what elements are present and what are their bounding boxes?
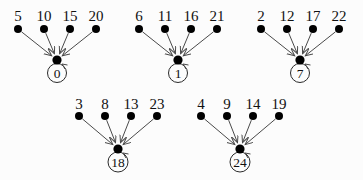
leaf-node-label: 20 (89, 8, 104, 24)
mapping-group: 21217227 (257, 8, 347, 83)
leaf-node-dot (213, 25, 221, 33)
leaf-node-dot (197, 112, 205, 120)
leaf-node-dot (92, 25, 100, 33)
leaf-node-label: 14 (246, 96, 262, 112)
edge-arrow (123, 119, 153, 145)
leaf-node-dot (187, 25, 195, 33)
hub-node-label: 7 (297, 66, 304, 81)
edge-arrow (303, 33, 312, 54)
edge-arrow (82, 119, 112, 145)
leaf-node-dot (127, 112, 135, 120)
diagram-canvas: 5101520061116211212172273813231849141924 (0, 0, 363, 180)
hub-node-dot (235, 144, 244, 153)
leaf-node-label: 23 (150, 96, 165, 112)
leaf-node-label: 13 (124, 96, 139, 112)
leaf-node-label: 6 (135, 8, 143, 24)
leaf-node-label: 3 (75, 96, 83, 112)
leaf-node-dot (14, 25, 22, 33)
edge-arrow (229, 120, 238, 142)
mapping-group: 51015200 (14, 8, 104, 83)
mapping-group: 49141924 (197, 96, 287, 172)
leaf-node-dot (75, 112, 83, 120)
leaf-node-label: 16 (184, 8, 200, 24)
leaf-node-dot (335, 25, 343, 33)
leaf-node-dot (66, 25, 74, 33)
edge-arrow (60, 33, 69, 54)
leaf-node-label: 12 (280, 8, 295, 24)
leaf-node-dot (161, 25, 169, 33)
edge-arrow (204, 119, 234, 145)
leaf-node-label: 11 (158, 8, 172, 24)
leaf-node-label: 4 (197, 96, 205, 112)
leaf-node-dot (153, 112, 161, 120)
edge-arrow (181, 33, 190, 54)
leaf-node-dot (257, 25, 265, 33)
edge-arrow (245, 119, 275, 145)
leaf-node-label: 17 (306, 8, 322, 24)
leaf-node-dot (283, 25, 291, 33)
edge-arrow (120, 120, 129, 142)
self-loop-arrowhead (305, 64, 311, 69)
hub-node-dot (173, 55, 182, 64)
edge-arrow (107, 120, 116, 142)
edge-arrow (46, 33, 55, 54)
functional-graph-diagram: 5101520061116211212172273813231849141924 (0, 0, 363, 180)
leaf-node-dot (135, 25, 143, 33)
hub-node-dot (295, 55, 304, 64)
leaf-node-dot (249, 112, 257, 120)
edge-arrow (289, 33, 298, 54)
hub-node-dot (52, 55, 61, 64)
leaf-node-dot (223, 112, 231, 120)
leaf-node-label: 5 (14, 8, 22, 24)
hub-node-label: 0 (54, 66, 61, 81)
leaf-node-label: 15 (63, 8, 78, 24)
leaf-node-dot (309, 25, 317, 33)
leaf-node-dot (40, 25, 48, 33)
leaf-node-label: 2 (257, 8, 265, 24)
leaf-node-label: 10 (37, 8, 52, 24)
hub-node-label: 1 (175, 66, 182, 81)
leaf-node-label: 22 (332, 8, 347, 24)
leaf-node-dot (275, 112, 283, 120)
edge-arrow (242, 120, 251, 142)
leaf-node-label: 21 (210, 8, 225, 24)
leaf-node-label: 8 (101, 96, 109, 112)
hub-node-label: 18 (111, 155, 125, 170)
self-loop-arrowhead (62, 64, 68, 69)
mapping-group: 61116211 (135, 8, 225, 83)
hub-node-dot (113, 144, 122, 153)
mapping-group: 38132318 (75, 96, 165, 172)
leaf-node-label: 9 (223, 96, 231, 112)
leaf-node-dot (101, 112, 109, 120)
hub-node-label: 24 (233, 155, 247, 170)
edge-arrow (167, 33, 176, 54)
self-loop-arrowhead (183, 64, 189, 69)
leaf-node-label: 19 (272, 96, 287, 112)
